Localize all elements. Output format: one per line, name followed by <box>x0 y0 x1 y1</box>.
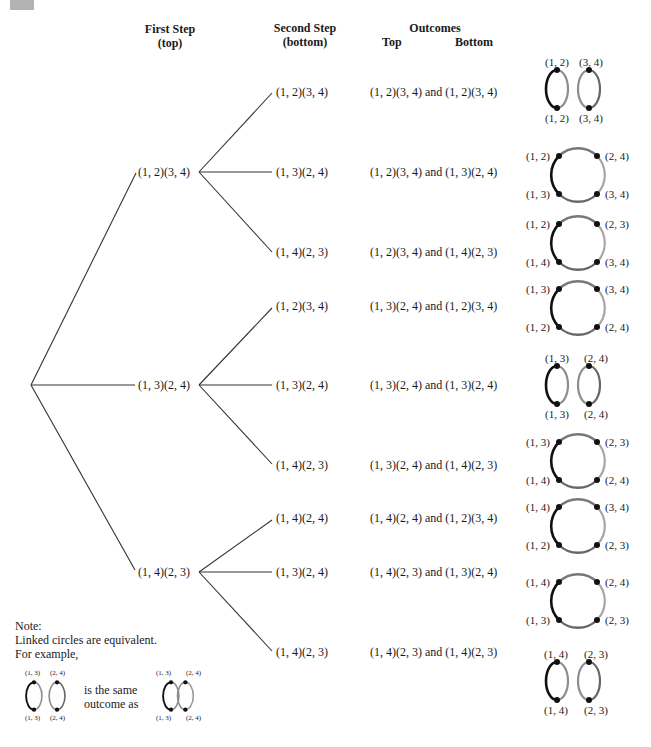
note-example-label: (2, 4) <box>186 669 201 677</box>
circle-label: (3, 4) <box>579 112 603 124</box>
note-example-label: (2, 4) <box>186 714 201 722</box>
circle-label: (2, 3) <box>584 648 608 660</box>
note-example-label: (1, 3) <box>156 714 171 722</box>
circle-label: (2, 4) <box>584 408 608 420</box>
note-example-label: (1, 3) <box>156 669 171 677</box>
circle-label: (3, 4) <box>605 256 629 268</box>
note-example-label: (2, 4) <box>50 714 65 722</box>
circle-label: (2, 3) <box>605 539 629 551</box>
circle-label: (1, 3) <box>545 408 569 420</box>
circle-label: (1, 2) <box>526 150 550 162</box>
circle-label: (2, 3) <box>605 436 629 448</box>
circle-label: (1, 4) <box>526 501 550 513</box>
circle-label: (2, 3) <box>584 704 608 716</box>
circle-label: (1, 3) <box>526 614 550 626</box>
note-line: Linked circles are equivalent. <box>15 633 157 647</box>
circle-label: (1, 3) <box>545 352 569 364</box>
note-line: For example, <box>15 647 78 661</box>
circle-pair-5 <box>546 363 600 407</box>
circle-label: (1, 2) <box>545 56 569 68</box>
circle-label: (1, 4) <box>544 648 568 660</box>
circle-label: (1, 3) <box>526 283 550 295</box>
circle-label: (1, 4) <box>526 474 550 486</box>
circle-label: (3, 4) <box>605 283 629 295</box>
circle-label: (1, 4) <box>526 576 550 588</box>
circle-label: (3, 4) <box>605 188 629 200</box>
circle-ring-6 <box>551 434 605 488</box>
note-same-text: is the same <box>84 683 137 697</box>
note-example-label: (1, 3) <box>25 669 40 677</box>
note-same-text: outcome as <box>84 697 138 711</box>
circle-ring-3 <box>551 216 605 270</box>
note-example-linked <box>163 680 193 712</box>
circle-pair-1 <box>546 67 600 111</box>
note-title: Note: <box>15 619 42 633</box>
circle-pair-9 <box>546 659 600 703</box>
circle-label: (2, 4) <box>605 150 629 162</box>
note-example-label: (1, 3) <box>25 714 40 722</box>
circle-label: (2, 3) <box>605 218 629 230</box>
circle-label: (1, 2) <box>526 321 550 333</box>
circle-ring-7 <box>551 499 605 553</box>
circle-label: (3, 4) <box>579 56 603 68</box>
note-example-label: (2, 4) <box>50 669 65 677</box>
circle-ring-4 <box>551 281 605 335</box>
circle-label: (1, 3) <box>526 436 550 448</box>
note-example-separate <box>26 680 65 712</box>
circle-label: (2, 4) <box>605 576 629 588</box>
circle-label: (1, 3) <box>526 188 550 200</box>
circle-label: (1, 2) <box>545 112 569 124</box>
circle-label: (2, 4) <box>605 474 629 486</box>
circle-ring-2 <box>551 148 605 202</box>
circle-label: (1, 4) <box>544 704 568 716</box>
circle-label: (2, 4) <box>605 321 629 333</box>
circle-label: (1, 2) <box>526 218 550 230</box>
circle-label: (1, 2) <box>526 539 550 551</box>
circle-label: (2, 3) <box>605 614 629 626</box>
circle-label: (3, 4) <box>605 501 629 513</box>
circle-ring-8 <box>551 574 605 628</box>
circle-label: (2, 4) <box>584 352 608 364</box>
circle-label: (1, 4) <box>526 256 550 268</box>
